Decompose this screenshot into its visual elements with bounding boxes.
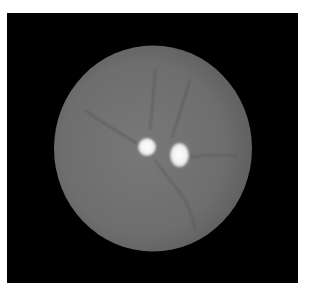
bright-spot-left: [138, 138, 156, 156]
fundus-image: [0, 0, 311, 291]
bright-spot-right: [170, 143, 189, 167]
